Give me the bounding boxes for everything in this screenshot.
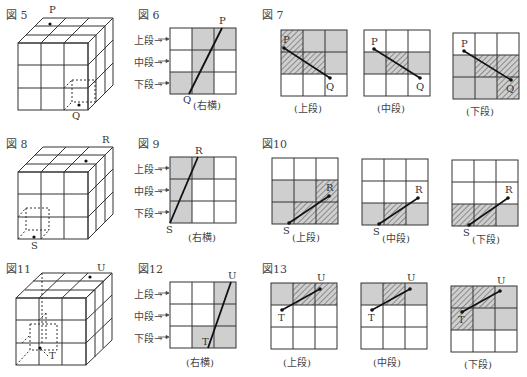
fig10-top-point-r: R	[326, 182, 334, 193]
fig10-top-point-s: S	[283, 225, 290, 236]
fig10-label: 図10	[262, 135, 287, 151]
fig11-label: 図11	[6, 260, 31, 276]
fig7-top-point-q: Q	[326, 81, 334, 92]
fig9-grid	[170, 157, 236, 223]
fig9-point-r: R	[195, 145, 203, 156]
fig12-row-middle: 中段→	[134, 308, 162, 323]
fig10-middle-point-s: S	[373, 226, 380, 237]
fig11-cube	[16, 273, 112, 365]
fig13-top-caption: (上段)	[283, 354, 311, 369]
diagram-canvas	[0, 0, 527, 377]
fig9-row-bottom: 下段→	[134, 205, 162, 220]
fig13-top-point-u: U	[317, 272, 325, 283]
fig13-bottom-caption: (下段)	[464, 356, 492, 371]
fig5-point-p: P	[49, 4, 56, 15]
fig11-point-t: T	[49, 350, 56, 361]
fig7-bottom-caption: (下段)	[466, 103, 494, 118]
fig7-bottom-point-p: P	[461, 38, 468, 49]
fig6-row-top: 上段→	[134, 32, 162, 47]
fig6-row-middle: 中段→	[134, 54, 162, 69]
fig5-cube	[18, 18, 113, 110]
fig13-bottom-point-u: U	[497, 275, 505, 286]
fig6-caption: (右横)	[193, 97, 221, 112]
fig8-label: 図 8	[6, 135, 28, 151]
fig6-label: 図 6	[138, 6, 160, 22]
fig12-label: 図12	[138, 260, 163, 276]
fig8-point-r: R	[102, 134, 110, 145]
fig10-top-caption: (上段)	[292, 229, 320, 244]
fig7-top-point-p: P	[283, 34, 290, 45]
fig13-middle-point-u: U	[407, 272, 415, 283]
fig10-bottom-point-s: S	[463, 227, 470, 238]
fig7-middle-point-q: Q	[416, 81, 424, 92]
fig6-point-p: P	[219, 15, 226, 26]
fig12-row-bottom: 下段→	[134, 330, 162, 345]
fig6-point-q: Q	[183, 94, 191, 105]
fig7-top-caption: (上段)	[294, 100, 322, 115]
fig9-caption: (右横)	[188, 229, 216, 244]
fig6-grid	[170, 28, 236, 94]
fig11-point-u: U	[97, 262, 105, 273]
fig7-label: 図 7	[262, 6, 284, 22]
fig5-point-q: Q	[72, 110, 80, 121]
fig7-middle-point-p: P	[371, 36, 378, 47]
fig13-middle-caption: (中段)	[373, 354, 401, 369]
fig10-middle-caption: (中段)	[382, 230, 410, 245]
fig12-point-u: U	[228, 270, 236, 281]
fig12-caption: (右横)	[186, 354, 214, 369]
fig9-row-top: 上段→	[134, 161, 162, 176]
fig10-middle-point-r: R	[415, 184, 423, 195]
fig9-row-middle: 中段→	[134, 183, 162, 198]
fig7-bottom-point-q: Q	[506, 83, 514, 94]
fig10-bottom-caption: (下段)	[472, 231, 500, 246]
fig5-label: 図 5	[6, 6, 28, 22]
fig8-point-s: S	[31, 240, 38, 251]
fig8-cube	[18, 147, 113, 239]
fig7-panel-top	[281, 30, 347, 96]
fig12-point-t: T	[202, 336, 209, 347]
fig9-point-s: S	[166, 224, 173, 235]
fig12-row-top: 上段→	[134, 286, 162, 301]
fig9-label: 図 9	[138, 135, 160, 151]
fig6-row-bottom: 下段→	[134, 76, 162, 91]
fig13-top-point-t: T	[278, 312, 285, 323]
fig7-middle-caption: (中段)	[377, 100, 405, 115]
fig13-label: 図13	[262, 260, 287, 276]
fig10-bottom-point-r: R	[505, 184, 513, 195]
fig13-middle-point-t: T	[368, 312, 375, 323]
fig13-bottom-point-t: T	[458, 314, 465, 325]
